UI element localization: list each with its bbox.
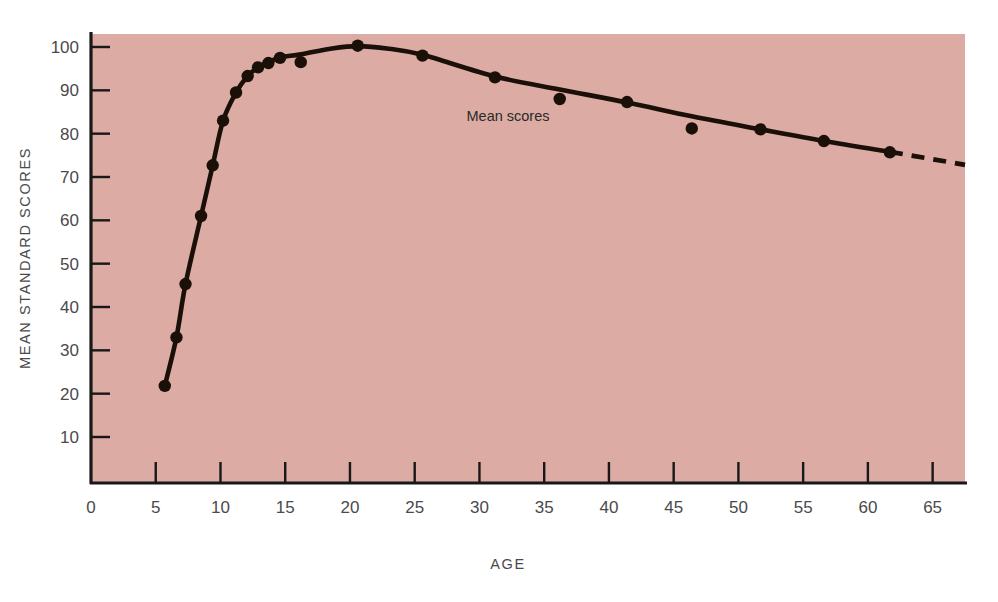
data-point (352, 40, 364, 52)
y-tick-label-40: 40 (60, 298, 79, 317)
y-tick-label-100: 100 (51, 38, 79, 57)
data-point (230, 86, 242, 98)
y-axis-title: MEAN STANDARD SCORES (17, 147, 33, 369)
data-point (262, 57, 274, 69)
y-tick-label-50: 50 (60, 255, 79, 274)
data-point (621, 96, 633, 108)
y-tick-label-30: 30 (60, 341, 79, 360)
data-point (170, 331, 182, 343)
data-point (195, 210, 207, 222)
x-tick-label-0: 0 (86, 498, 95, 517)
x-tick-label-60: 60 (858, 498, 877, 517)
x-axis-title: AGE (490, 556, 525, 572)
y-tick-label-80: 80 (60, 125, 79, 144)
x-tick-label-30: 30 (470, 498, 489, 517)
plot-area-background (91, 34, 965, 483)
x-tick-label-10: 10 (211, 498, 230, 517)
x-tick-label-40: 40 (599, 498, 618, 517)
data-point (884, 146, 896, 158)
chart-figure: 102030405060708090100 051015202530354045… (0, 0, 998, 602)
x-tick-label-65: 65 (923, 498, 942, 517)
x-axis-tick-labels: 05101520253035404550556065 (86, 498, 942, 517)
data-point (241, 70, 253, 82)
data-point (217, 114, 229, 126)
x-tick-label-35: 35 (535, 498, 554, 517)
y-tick-label-70: 70 (60, 168, 79, 187)
x-tick-label-45: 45 (664, 498, 683, 517)
data-point (489, 71, 501, 83)
x-tick-label-50: 50 (729, 498, 748, 517)
y-tick-label-90: 90 (60, 81, 79, 100)
data-point (818, 135, 830, 147)
data-point (686, 122, 698, 134)
data-point (207, 159, 219, 171)
data-point (159, 380, 171, 392)
data-point (416, 49, 428, 61)
y-tick-label-20: 20 (60, 385, 79, 404)
x-tick-label-20: 20 (341, 498, 360, 517)
data-point (554, 93, 566, 105)
y-tick-label-10: 10 (60, 428, 79, 447)
data-point (274, 52, 286, 64)
x-tick-label-55: 55 (794, 498, 813, 517)
y-tick-label-60: 60 (60, 211, 79, 230)
data-point (179, 278, 191, 290)
chart-canvas: 102030405060708090100 051015202530354045… (0, 0, 998, 602)
x-tick-label-5: 5 (151, 498, 160, 517)
data-point (754, 123, 766, 135)
x-tick-label-15: 15 (276, 498, 295, 517)
series-annotation-label: Mean scores (467, 108, 550, 124)
y-axis-tick-labels: 102030405060708090100 (51, 38, 79, 447)
x-tick-label-25: 25 (405, 498, 424, 517)
data-point (295, 56, 307, 68)
